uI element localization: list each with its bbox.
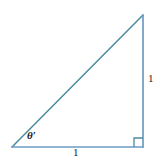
triangle-figure: θ′ 1 1 — [0, 0, 164, 162]
angle-theta-prime-label: θ′ — [27, 130, 36, 141]
horizontal-side-length-label: 1 — [73, 147, 79, 158]
triangle-drawing — [0, 0, 164, 162]
vertical-side-length-label: 1 — [148, 73, 154, 84]
